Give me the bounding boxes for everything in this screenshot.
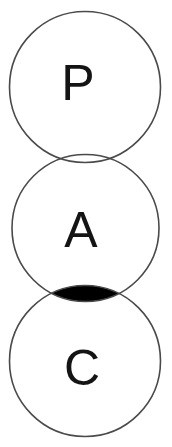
circle-a-label: A <box>64 202 98 258</box>
circle-c-label: C <box>64 340 100 396</box>
venn-diagram: P A C <box>0 0 172 447</box>
circle-p-label: P <box>61 55 94 111</box>
venn-diagram-canvas: P A C <box>0 0 172 447</box>
